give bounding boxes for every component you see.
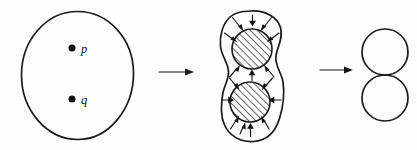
disk-outline bbox=[22, 12, 134, 140]
figure-container: p q bbox=[0, 0, 417, 150]
result-circle-lower bbox=[362, 75, 408, 121]
point-q-dot bbox=[69, 96, 76, 103]
result-circle-upper bbox=[362, 29, 408, 75]
point-p-label: p bbox=[80, 42, 87, 56]
point-p-dot bbox=[69, 45, 76, 52]
panel-disk-with-two-points: p q bbox=[22, 12, 134, 140]
panel-pinching-region bbox=[220, 11, 283, 142]
transition-arrow-2-icon bbox=[320, 66, 353, 73]
transition-arrow-1-icon bbox=[159, 68, 194, 75]
panel-wedge-of-two-circles bbox=[362, 29, 408, 121]
hatched-disk-upper bbox=[232, 29, 272, 69]
point-q-label: q bbox=[81, 93, 87, 107]
diagram-canvas: p q bbox=[0, 0, 417, 150]
